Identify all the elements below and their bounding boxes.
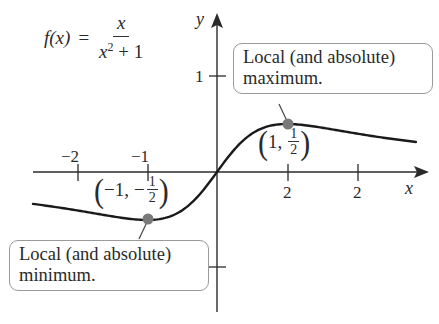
min-label-sign: − xyxy=(134,179,145,201)
y-tick-label-1: 1 xyxy=(195,68,204,85)
max-label-x: 1, xyxy=(268,131,282,153)
min-label-x: −1, xyxy=(104,179,129,201)
max-label-fraction: 1 2 xyxy=(288,127,299,157)
denominator-base: x xyxy=(99,41,107,62)
min-point-label: ( −1, − 1 2 ) xyxy=(94,175,169,205)
min-callout-line2: minimum. xyxy=(19,265,200,286)
x-axis-label: x xyxy=(405,179,413,197)
max-label-denominator: 2 xyxy=(290,142,297,157)
x-tick-label-neg1: −1 xyxy=(131,148,149,165)
y-axis-label: y xyxy=(196,10,204,28)
denominator-rest: + 1 xyxy=(114,41,144,62)
min-leader-line xyxy=(139,222,147,239)
min-label-fraction: 1 2 xyxy=(147,175,158,205)
x-tick-label-neg2: −2 xyxy=(61,148,79,165)
min-callout: Local (and absolute) minimum. xyxy=(9,240,209,291)
formula-equals: = xyxy=(78,27,89,49)
max-label-numerator: 1 xyxy=(288,127,299,142)
x-tick-label-2: 2 xyxy=(353,184,362,201)
formula-fraction: x x2 + 1 xyxy=(99,12,143,63)
min-label-numerator: 1 xyxy=(147,175,158,190)
max-callout-line1: Local (and absolute) xyxy=(243,47,424,68)
min-point xyxy=(143,214,154,225)
formula-numerator: x xyxy=(113,12,129,37)
max-callout: Local (and absolute) maximum. xyxy=(233,43,433,94)
max-callout-line2: maximum. xyxy=(243,68,424,89)
function-formula: f(x) = x x2 + 1 xyxy=(44,12,143,63)
max-point-label: ( 1, 1 2 ) xyxy=(258,127,310,157)
x-tick-label-1: 2 xyxy=(283,184,292,201)
min-label-denominator: 2 xyxy=(149,190,156,205)
max-leader-line xyxy=(279,104,287,121)
formula-lhs: f(x) xyxy=(44,27,70,49)
formula-denominator: x2 + 1 xyxy=(99,37,143,63)
min-callout-line1: Local (and absolute) xyxy=(19,244,200,265)
